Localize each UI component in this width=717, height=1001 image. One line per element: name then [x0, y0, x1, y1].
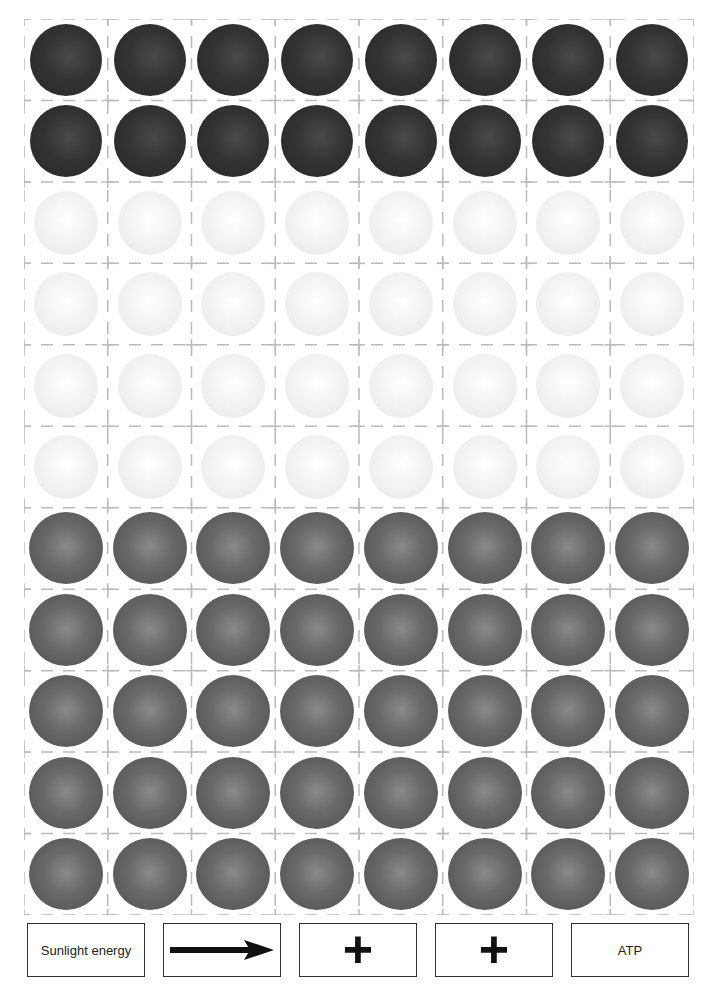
grid-cell	[192, 182, 276, 263]
grid-cell	[192, 671, 276, 752]
medium-sphere	[29, 594, 103, 666]
dark-sphere	[30, 105, 102, 177]
grid-cell	[108, 834, 192, 915]
light-sphere	[285, 191, 349, 255]
light-sphere	[34, 272, 98, 336]
plus-card-2: +	[435, 923, 553, 977]
grid-cell	[24, 752, 108, 833]
medium-sphere	[448, 675, 522, 747]
plus-icon: +	[343, 923, 373, 975]
grid-cell	[24, 508, 108, 589]
grid-cell	[192, 426, 276, 507]
medium-sphere	[448, 757, 522, 829]
light-sphere	[201, 354, 265, 418]
grid-cell	[527, 263, 611, 344]
grid-cell	[108, 19, 192, 100]
light-sphere	[118, 191, 182, 255]
grid-cell	[527, 671, 611, 752]
grid-cell	[192, 752, 276, 833]
medium-sphere	[615, 512, 689, 584]
medium-sphere	[280, 675, 354, 747]
grid-cell	[359, 426, 443, 507]
medium-sphere	[364, 838, 438, 910]
grid-cell	[610, 345, 694, 426]
grid-cell	[610, 508, 694, 589]
grid-cell	[527, 589, 611, 670]
grid-cell	[24, 263, 108, 344]
grid-cell	[443, 263, 527, 344]
medium-sphere	[29, 675, 103, 747]
grid-cell	[610, 100, 694, 181]
grid-cell	[610, 263, 694, 344]
light-sphere	[34, 354, 98, 418]
light-sphere	[118, 272, 182, 336]
light-sphere	[118, 435, 182, 499]
grid-cell	[108, 426, 192, 507]
medium-sphere	[113, 757, 187, 829]
grid-cell	[108, 589, 192, 670]
light-sphere	[453, 435, 517, 499]
grid-cell	[443, 834, 527, 915]
grid-cell	[443, 508, 527, 589]
grid-cell	[275, 671, 359, 752]
light-sphere	[453, 272, 517, 336]
dark-sphere	[532, 24, 604, 96]
grid-cell	[359, 834, 443, 915]
dark-sphere	[197, 105, 269, 177]
light-sphere	[118, 354, 182, 418]
grid-cell	[275, 752, 359, 833]
light-sphere	[285, 435, 349, 499]
medium-sphere	[531, 757, 605, 829]
medium-sphere	[615, 757, 689, 829]
grid-cell	[443, 671, 527, 752]
grid-cell	[275, 182, 359, 263]
dark-sphere	[281, 105, 353, 177]
cutout-sphere-grid	[24, 19, 694, 915]
medium-sphere	[29, 838, 103, 910]
grid-cell	[610, 671, 694, 752]
medium-sphere	[531, 675, 605, 747]
dark-sphere	[616, 105, 688, 177]
grid-cell	[610, 752, 694, 833]
grid-cell	[527, 508, 611, 589]
dark-sphere	[449, 105, 521, 177]
medium-sphere	[364, 675, 438, 747]
arrow-card	[163, 923, 281, 977]
light-sphere	[201, 191, 265, 255]
grid-cell	[527, 345, 611, 426]
grid-cell	[108, 263, 192, 344]
grid-cell	[359, 752, 443, 833]
dark-sphere	[30, 24, 102, 96]
medium-sphere	[364, 594, 438, 666]
light-sphere	[620, 272, 684, 336]
dark-sphere	[532, 105, 604, 177]
light-sphere	[453, 191, 517, 255]
grid-cell	[527, 182, 611, 263]
light-sphere	[620, 354, 684, 418]
medium-sphere	[615, 594, 689, 666]
grid-cell	[527, 100, 611, 181]
medium-sphere	[280, 757, 354, 829]
grid-cell	[610, 19, 694, 100]
medium-sphere	[29, 512, 103, 584]
medium-sphere	[196, 594, 270, 666]
grid-cell	[275, 589, 359, 670]
medium-sphere	[113, 675, 187, 747]
light-sphere	[369, 354, 433, 418]
medium-sphere	[531, 838, 605, 910]
light-sphere	[285, 272, 349, 336]
grid-cell	[275, 263, 359, 344]
light-sphere	[34, 191, 98, 255]
dark-sphere	[114, 105, 186, 177]
atp-label: ATP	[618, 943, 642, 958]
grid-cell	[108, 752, 192, 833]
grid-cell	[24, 834, 108, 915]
grid-cell	[359, 589, 443, 670]
light-sphere	[620, 191, 684, 255]
grid-cell	[275, 19, 359, 100]
medium-sphere	[113, 512, 187, 584]
medium-sphere	[280, 512, 354, 584]
medium-sphere	[29, 757, 103, 829]
grid-cell	[108, 345, 192, 426]
grid-cell	[359, 671, 443, 752]
